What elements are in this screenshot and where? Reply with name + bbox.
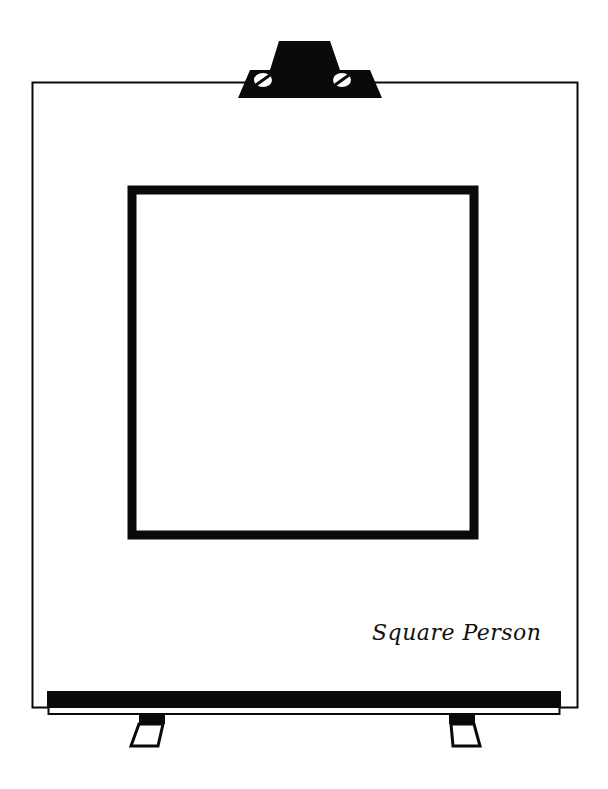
easel-leg-icon (131, 714, 165, 746)
easel-tray (47, 691, 561, 714)
screw-icon (254, 73, 272, 87)
easel-board (33, 83, 578, 708)
easel-clip-icon (238, 41, 382, 98)
screw-icon (333, 73, 351, 87)
artwork-caption: Square Person (372, 620, 542, 645)
easel-illustration (0, 0, 608, 789)
easel-leg-icon (449, 714, 480, 746)
